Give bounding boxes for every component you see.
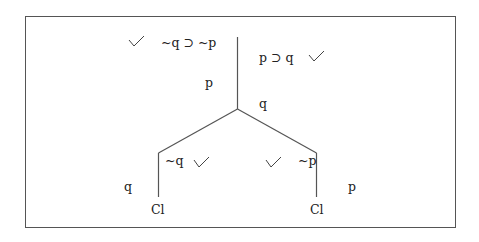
premise-1-formula: ~q ⊃ ~p <box>161 36 216 50</box>
right-branch-side-note: p <box>348 180 356 194</box>
left-branch-side-note: q <box>124 180 132 194</box>
tree-lines <box>0 0 479 242</box>
assumption-right: q <box>259 97 267 111</box>
check-icon <box>194 157 209 167</box>
left-branch-node: ~q <box>165 154 183 168</box>
check-icon <box>266 157 281 167</box>
premise-2-formula: p ⊃ q <box>259 51 293 65</box>
check-icon <box>309 51 324 61</box>
left-branch-closure: Cl <box>151 203 165 217</box>
right-branch-closure: Cl <box>310 203 324 217</box>
assumption-left: p <box>205 76 213 90</box>
right-branch-node: ~p <box>298 154 316 168</box>
check-icon <box>129 36 144 46</box>
left-branch-diagonal <box>159 109 238 153</box>
right-branch-diagonal <box>238 109 317 153</box>
